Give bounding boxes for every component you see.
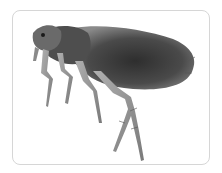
photo-frame bbox=[12, 10, 210, 165]
flea-image bbox=[13, 11, 210, 165]
